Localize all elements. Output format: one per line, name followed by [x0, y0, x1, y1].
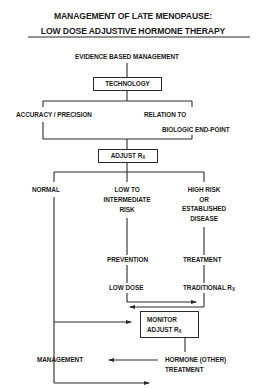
relation-to-label: RELATION TO [144, 112, 186, 118]
technology-box: TECHNOLOGY [93, 77, 162, 91]
monitor-adjust-rx-box: MONITOR ADJUST RX [140, 311, 199, 338]
low-risk-label-line2: INTERMEDIATE [87, 197, 167, 203]
monitor-adjust-rx-label: ADJUST RX [147, 327, 182, 335]
high-risk-label-line3: ESTABLISHED [169, 206, 239, 212]
adjust-rx-subscript: X [142, 155, 145, 160]
traditional-rx-label: TRADITIONAL RX [183, 285, 235, 293]
hormone-treatment-label: TREATMENT [165, 367, 203, 373]
evidence-based-management-label: EVIDENCE BASED MANAGEMENT [27, 54, 227, 60]
diagram-title-line2: LOW DOSE ADJUSTIVE HORMONE THERAPY [0, 27, 266, 36]
monitor-adjust-rx-subscript: X [179, 329, 182, 334]
technology-label: TECHNOLOGY [94, 81, 161, 87]
adjust-rx-box: ADJUST RX [98, 149, 158, 163]
high-risk-label-line2: OR [169, 197, 239, 203]
low-dose-label: LOW DOSE [109, 285, 143, 291]
diagram-title-line1: MANAGEMENT OF LATE MENOPAUSE: [0, 12, 266, 21]
hormone-other-label: HORMONE (OTHER) [165, 357, 226, 363]
accuracy-precision-label: ACCURACY / PRECISION [16, 112, 92, 118]
traditional-rx-text: TRADITIONAL R [183, 284, 232, 291]
prevention-label: PREVENTION [107, 257, 148, 263]
normal-label: NORMAL [32, 187, 60, 193]
management-label: MANAGEMENT [37, 357, 83, 363]
adjust-rx-text: ADJUST R [111, 152, 143, 159]
monitor-label: MONITOR [147, 317, 177, 323]
monitor-adjust-rx-text: ADJUST R [147, 326, 179, 333]
biologic-end-point-label: BIOLOGIC END-POINT [162, 127, 230, 133]
traditional-rx-subscript: X [232, 287, 235, 292]
high-risk-label-line1: HIGH RISK [169, 187, 239, 193]
low-risk-label-line1: LOW TO [87, 187, 167, 193]
treatment-label: TREATMENT [183, 257, 221, 263]
low-risk-label-line3: RISK [87, 207, 167, 213]
adjust-rx-label: ADJUST RX [99, 153, 157, 161]
high-risk-label-line4: DISEASE [169, 216, 239, 222]
